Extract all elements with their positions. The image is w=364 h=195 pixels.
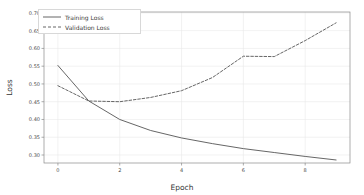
legend-swatch-solid-line <box>43 14 61 20</box>
y-axis-title: Loss <box>5 74 14 100</box>
series-lines <box>58 23 336 160</box>
series-line-validation-loss <box>58 23 336 102</box>
y-tick-label: 0.70 <box>0 10 40 16</box>
x-tick-label: 0 <box>56 167 59 173</box>
chart-figure: 0.300.350.400.450.500.550.600.650.700246… <box>0 0 364 195</box>
legend-item-validation-loss: Validation Loss <box>39 22 140 32</box>
y-tick-label: 0.65 <box>0 28 40 34</box>
y-tick-label: 0.55 <box>0 63 40 69</box>
x-axis-title: Epoch <box>0 183 364 192</box>
legend-label-training-loss: Training Loss <box>65 14 104 21</box>
legend-swatch-dashed-line <box>43 24 61 30</box>
y-tick-label: 0.60 <box>0 45 40 51</box>
x-tick-label: 4 <box>180 167 183 173</box>
x-tick-label: 6 <box>242 167 245 173</box>
axis-ticks <box>42 13 306 166</box>
y-tick-label: 0.40 <box>0 116 40 122</box>
y-tick-label: 0.30 <box>0 152 40 158</box>
x-tick-label: 8 <box>304 167 307 173</box>
legend-label-validation-loss: Validation Loss <box>65 24 110 31</box>
chart-legend: Training Loss Validation Loss <box>38 9 141 34</box>
x-tick-label: 2 <box>118 167 121 173</box>
series-line-training-loss <box>58 65 336 160</box>
y-tick-label: 0.35 <box>0 134 40 140</box>
legend-item-training-loss: Training Loss <box>39 12 140 22</box>
